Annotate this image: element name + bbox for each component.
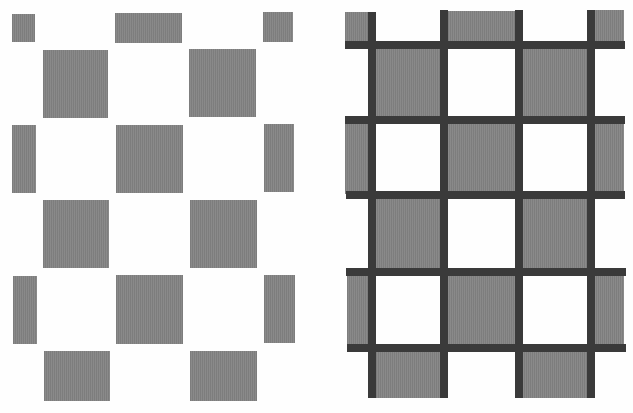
- right-grid-pattern-panel: [0, 0, 633, 413]
- gray-square: [594, 118, 624, 194]
- gray-square: [373, 44, 441, 116]
- dark-horizontal-bar: [345, 116, 625, 124]
- gray-square: [373, 195, 445, 271]
- dark-horizontal-bar: [347, 344, 626, 352]
- gray-square: [447, 272, 519, 348]
- dark-vertical-bar: [368, 12, 376, 398]
- dark-horizontal-bar: [346, 268, 626, 276]
- gray-square: [447, 120, 519, 196]
- dark-vertical-bar: [515, 10, 523, 398]
- dark-horizontal-bar: [346, 191, 625, 199]
- gray-square: [372, 348, 444, 398]
- gray-square: [520, 44, 590, 116]
- gray-square: [520, 195, 590, 271]
- gray-square: [520, 348, 592, 398]
- dark-vertical-bar: [440, 10, 448, 398]
- gray-square: [440, 11, 517, 42]
- dark-vertical-bar: [587, 10, 595, 398]
- dark-horizontal-bar: [345, 41, 625, 49]
- gray-square: [594, 272, 624, 348]
